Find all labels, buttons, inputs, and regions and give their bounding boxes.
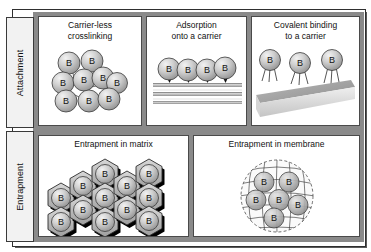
bead-label: B <box>114 78 120 88</box>
bead-label: B <box>166 64 172 74</box>
panel-entrapment-membrane: Entrapment in membrane <box>193 135 360 237</box>
bead-label: B <box>102 193 108 203</box>
bead-label: B <box>102 217 108 227</box>
bead-label: B <box>102 169 108 179</box>
bead-label: B <box>80 181 86 191</box>
carrier-surface <box>153 83 242 104</box>
carrier-slab <box>256 80 355 117</box>
bead-label: B <box>276 195 282 205</box>
bead-label: B <box>60 78 66 88</box>
bead-label: B <box>329 55 335 65</box>
bead-label: B <box>106 94 112 104</box>
bead-label: B <box>146 169 152 179</box>
category-tab-attachment: Attachment <box>6 17 34 128</box>
panel-title-crosslinking: Carrier-less crosslinking <box>39 20 141 41</box>
bead-label: B <box>253 195 259 205</box>
bead-label: B <box>63 96 69 106</box>
panel-art-entrapment-membrane: B B B B B B <box>194 158 359 236</box>
bead-label: B <box>146 216 152 226</box>
bead-label: B <box>100 73 106 83</box>
bead-label: B <box>58 217 64 227</box>
bead-label: B <box>124 181 130 191</box>
bead-label: B <box>58 193 64 203</box>
bead-label: B <box>261 177 267 187</box>
bead-label: B <box>271 213 277 223</box>
panel-covalent-binding: Covalent binding to a carrier <box>251 16 360 126</box>
panel-entrapment-matrix: Entrapment in matrix <box>38 135 189 237</box>
bead-label: B <box>80 205 86 215</box>
panel-title-entrapment-matrix: Entrapment in matrix <box>39 139 188 150</box>
bead-label: B <box>295 200 301 210</box>
bead-label: B <box>267 55 273 65</box>
category-label-entrapment: Entrapment <box>15 163 25 211</box>
panel-art-adsorption: B B B B <box>147 39 246 125</box>
panel-art-entrapment-matrix: B B B B B B B B B B B B <box>39 158 188 236</box>
bead-label: B <box>297 58 303 68</box>
immobilization-methods-figure: Attachment Entrapment Carrier-less cross… <box>0 0 371 252</box>
panel-art-covalent-binding: B B B <box>252 39 359 125</box>
panel-title-adsorption: Adsorption onto a carrier <box>147 20 246 41</box>
bead-label: B <box>185 65 191 75</box>
bead-label: B <box>222 63 228 73</box>
bead-label: B <box>204 65 210 75</box>
bead-label: B <box>86 96 92 106</box>
panel-adsorption: Adsorption onto a carrier <box>146 16 247 126</box>
bead-label: B <box>81 75 87 85</box>
panel-title-covalent-binding: Covalent binding to a carrier <box>252 20 359 41</box>
category-label-attachment: Attachment <box>15 49 25 96</box>
panel-art-crosslinking: B B B B B B B B B <box>39 39 141 125</box>
panel-title-entrapment-membrane: Entrapment in membrane <box>194 139 359 150</box>
bead-label: B <box>124 205 130 215</box>
bead-label: B <box>286 177 292 187</box>
bead-label: B <box>66 58 72 68</box>
panel-crosslinking: Carrier-less crosslinking <box>38 16 142 126</box>
category-tab-entrapment: Entrapment <box>6 131 34 242</box>
bead-label: B <box>146 193 152 203</box>
bead-label: B <box>89 56 95 66</box>
